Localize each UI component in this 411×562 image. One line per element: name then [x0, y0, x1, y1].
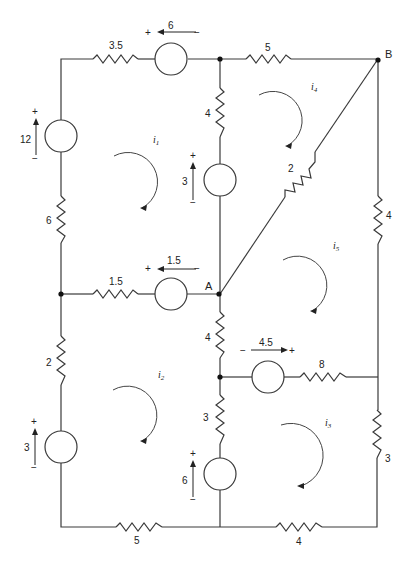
val-4-5: 4.5	[259, 337, 273, 348]
label-r-3-mid: 3	[203, 412, 209, 423]
pol-6-top-minus: −	[194, 27, 200, 38]
pol-3-left-minus: −	[31, 462, 37, 473]
voltage-sources	[45, 43, 284, 490]
resistor-3-mid	[216, 395, 224, 444]
label-r-3-5: 3.5	[109, 40, 123, 51]
label-i4: i4	[311, 81, 318, 94]
label-i5: i5	[333, 240, 340, 253]
loop-arrow-i5	[283, 256, 327, 311]
source-3-mid	[204, 164, 236, 196]
label-i3: i3	[325, 417, 332, 430]
pol-3-mid-minus: −	[190, 197, 196, 208]
label-r-8: 8	[319, 359, 325, 370]
node-top-mid	[217, 56, 222, 61]
loop-arrow-i1	[114, 152, 158, 208]
label-r-6: 6	[46, 215, 52, 226]
label-r-5-top: 5	[265, 42, 271, 53]
junction-nodes: A B	[58, 48, 392, 380]
val-3-left: 3	[24, 442, 30, 453]
label-r-4-mid-upper: 4	[205, 108, 211, 119]
val-12: 12	[20, 134, 32, 145]
resistor-4-mid-lower	[216, 312, 224, 358]
label-r-4-mid-lower: 4	[205, 332, 211, 343]
pol-3-left-plus: +	[31, 416, 37, 427]
label-r-4-right: 4	[386, 210, 392, 221]
circuit-diagram: A B 3.5 5 4 2 4 6 1.5 4 8 2 3 3 5 4 + − …	[0, 0, 411, 562]
pol-6-top-plus: +	[145, 27, 151, 38]
loop-arrow-i4	[259, 91, 302, 146]
pol-12-minus: −	[32, 153, 38, 164]
loop-arrow-i3	[281, 423, 323, 486]
node-A	[216, 291, 221, 296]
label-r-3-right: 3	[385, 453, 391, 464]
source-4-5	[252, 361, 284, 393]
pol-1-5-plus: +	[145, 263, 151, 274]
resistor-6	[57, 196, 65, 243]
source-6-bottom	[204, 458, 236, 490]
node-label-a: A	[205, 280, 213, 292]
label-r-4-bottom: 4	[296, 536, 302, 547]
label-i2: i2	[158, 369, 165, 382]
source-6-top	[155, 43, 187, 75]
pol-1-5-minus: −	[194, 263, 200, 274]
resistor-2-left	[57, 336, 65, 385]
label-r-2-left: 2	[46, 357, 52, 368]
val-6-top: 6	[168, 20, 174, 31]
resistor-4-right	[374, 196, 382, 244]
pol-4-5-plus: +	[289, 345, 295, 356]
pol-4-5-minus: −	[240, 345, 246, 356]
loop-arrow-i2	[113, 386, 157, 441]
val-6-bottom: 6	[182, 475, 188, 486]
label-r-5-bottom: 5	[134, 535, 140, 546]
node-lower-mid	[217, 374, 222, 379]
resistor-2-diagonal	[285, 152, 315, 197]
resistor-5-top	[246, 55, 291, 63]
node-left-mid	[58, 291, 63, 296]
node-label-b: B	[385, 48, 392, 60]
resistor-1-5	[93, 290, 138, 298]
pol-6-bottom-minus: −	[190, 494, 196, 505]
resistor-5-bottom	[116, 523, 162, 531]
val-1-5: 1.5	[167, 255, 181, 266]
pol-12-plus: +	[32, 106, 38, 117]
resistor-3-right	[373, 410, 381, 458]
node-B	[375, 57, 380, 62]
label-r-2-diag: 2	[288, 163, 294, 174]
resistor-4-bottom	[276, 523, 322, 531]
val-3-mid: 3	[182, 176, 188, 187]
source-12	[45, 120, 77, 152]
source-1-5	[155, 278, 187, 310]
resistor-3-5	[93, 55, 138, 63]
label-i1: i1	[153, 134, 159, 147]
resistor-4-mid-upper	[216, 88, 224, 137]
pol-3-mid-plus: +	[190, 150, 196, 161]
resistor-8	[300, 373, 346, 381]
label-r-1-5: 1.5	[109, 276, 123, 287]
pol-6-bottom-plus: +	[190, 448, 196, 459]
source-3-left	[45, 431, 77, 463]
